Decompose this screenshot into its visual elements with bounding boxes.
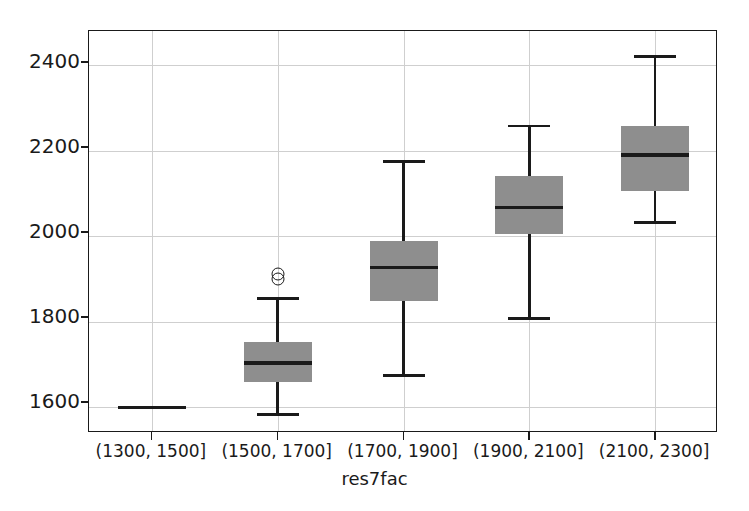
cap-lower [634,221,676,224]
y-axis: 2400 2200 2000 1800 1600 [0,0,80,511]
whisker-upper [276,299,279,342]
outlier-point-1 [271,273,284,286]
whisker-lower [402,301,405,376]
x-tick-mark [277,432,279,440]
whisker-upper [402,161,405,241]
cap-upper [508,125,550,128]
y-tick-label-2000: 2000 [29,219,80,243]
x-axis-label: res7fac [0,468,749,489]
y-tick-label-2400: 2400 [29,49,80,73]
x-tick-label-1: (1500, 1700] [221,441,332,461]
x-tick-mark [151,432,153,440]
y-tick-label-1600: 1600 [29,389,80,413]
plot-area [88,30,717,432]
x-tick-mark [403,432,405,440]
median-line [244,361,312,364]
whisker-upper [528,126,531,177]
x-tick-mark [654,432,656,440]
cap-upper [257,297,299,300]
y-tick-label-2200: 2200 [29,134,80,158]
boxplot-figure: 2400 2200 2000 1800 1600 (1300, 1500](15… [0,0,749,511]
cap-upper [634,55,676,58]
whisker-lower [654,191,657,223]
box-rect [370,241,438,301]
median-line [621,153,689,156]
median-line [118,406,186,409]
y-tick-label-1800: 1800 [29,304,80,328]
median-line [495,206,563,209]
whisker-upper [654,57,657,126]
gridline-horizontal [89,65,716,66]
x-tick-label-0: (1300, 1500] [96,441,207,461]
cap-upper [383,160,425,163]
x-tick-label-3: (1900, 2100] [473,441,584,461]
cap-lower [508,317,550,320]
box-rect [621,126,689,191]
whisker-lower [276,382,279,415]
whisker-lower [528,234,531,318]
gridline-vertical [152,31,153,431]
cap-lower [257,413,299,416]
cap-lower [383,374,425,377]
x-tick-label-4: (2100, 2300] [599,441,710,461]
x-tick-label-2: (1700, 1900] [347,441,458,461]
x-tick-mark [528,432,530,440]
median-line [370,266,438,269]
